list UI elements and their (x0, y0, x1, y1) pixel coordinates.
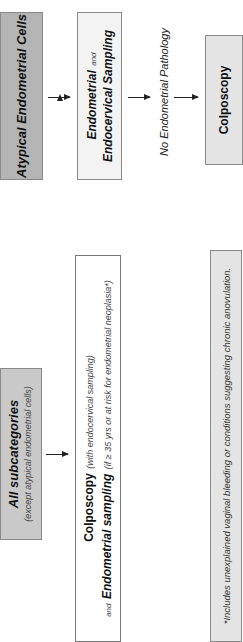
colposcopy-label-bottom: Colposcopy (82, 473, 96, 542)
endometrial-sampling-line: and Endometrial sampling (if ≥ 35 yrs or… (98, 280, 117, 617)
no-endometrial-pathology-label-wrap: No Endometrial Pathology (152, 17, 176, 167)
endometrial-sampling-note: (if ≥ 35 yrs or at risk for endometrial … (103, 280, 113, 469)
arrow-atypical-to-sampling (48, 97, 70, 98)
sampling-line-1: Endometrial and (83, 52, 101, 139)
footnote-box: *Includes unexplained vaginal bleeding o… (210, 250, 242, 642)
arrow-sampling-to-condition (128, 97, 150, 98)
and-label: and (89, 52, 98, 65)
endocervical-sampling-label: Endocervical Sampling (101, 30, 116, 162)
no-endometrial-pathology-label: No Endometrial Pathology (158, 28, 170, 156)
and-label-bottom: and (104, 603, 113, 616)
colposcopy-label-top: Colposcopy (217, 66, 231, 135)
all-subcategories-label: All subcategories (7, 400, 21, 508)
colposcopy-endometrial-sampling-box: Colposcopy (with endocervical sampling) … (75, 255, 121, 642)
all-subcategories-subtitle: (except atypical endometrial cells) (21, 386, 35, 522)
arrow-subcategories-to-colposcopy (46, 454, 68, 455)
atypical-endometrial-cells-box: Atypical Endometrial Cells (0, 12, 43, 180)
colposcopy-box-top: Colposcopy (205, 35, 243, 165)
arrow-condition-to-colposcopy (174, 97, 198, 98)
endometrial-sampling-label: Endometrial sampling (100, 474, 114, 599)
endometrial-endocervical-sampling-box: Endometrial and Endocervical Sampling (77, 12, 122, 180)
colposcopy-note: (with endocervical sampling) (85, 355, 95, 469)
atypical-endometrial-cells-label: Atypical Endometrial Cells (14, 14, 29, 178)
endometrial-label: Endometrial (85, 70, 99, 139)
colposcopy-line: Colposcopy (with endocervical sampling) (80, 355, 98, 542)
footnote-text: *Includes unexplained vaginal bleeding o… (221, 268, 232, 625)
all-subcategories-box: All subcategories (except atypical endom… (0, 368, 42, 540)
